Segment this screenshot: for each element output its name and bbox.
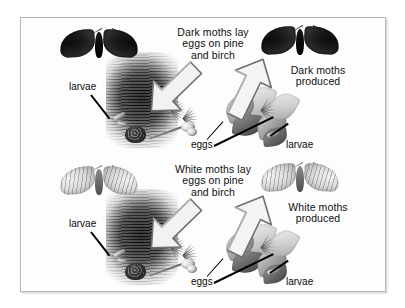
moth-life-cycle-figure: Dark moths lay eggs on pine and birch Da… [0,0,405,308]
label-larvae-right: larvae [286,276,313,287]
wing-right [303,163,340,192]
caption-dark-moths-lay: Dark moths lay eggs on pine and birch [157,27,269,61]
arrow-lay-eggs [137,54,209,126]
arrow-moths-produced [213,50,285,126]
arrow-moths-produced [213,187,285,263]
egg-cluster [187,265,197,273]
label-larvae-left: larvae [69,81,96,92]
wing-right [303,26,340,55]
moth-body [95,169,103,195]
caption-white-moths-lay: White moths lay eggs on pine and birch [157,164,269,198]
egg-cluster [187,128,197,136]
label-larvae-right: larvae [286,139,313,150]
dark-moth-panel: Dark moths lay eggs on pine and birch Da… [21,18,386,155]
label-eggs: eggs [191,139,213,150]
caption-dark-moths-produced: Dark moths produced [271,65,365,88]
wing-right [102,29,139,58]
wing-left [59,166,96,195]
moth-body [296,29,304,55]
pine-cone [125,126,146,143]
dark-moth-parent [60,28,138,62]
wing-left [59,29,96,58]
moth-body [95,32,103,58]
moth-body [296,166,304,192]
pine-cone [125,263,146,280]
label-eggs: eggs [191,276,213,287]
figure-frame: Dark moths lay eggs on pine and birch Da… [20,17,386,292]
arrow-lay-eggs [137,191,209,263]
label-larvae-left: larvae [69,218,96,229]
caption-white-moths-produced: White moths produced [271,202,365,225]
white-moth-parent [60,165,138,199]
wing-right [102,166,139,195]
white-moth-panel: White moths lay eggs on pine and birch W… [21,155,386,292]
